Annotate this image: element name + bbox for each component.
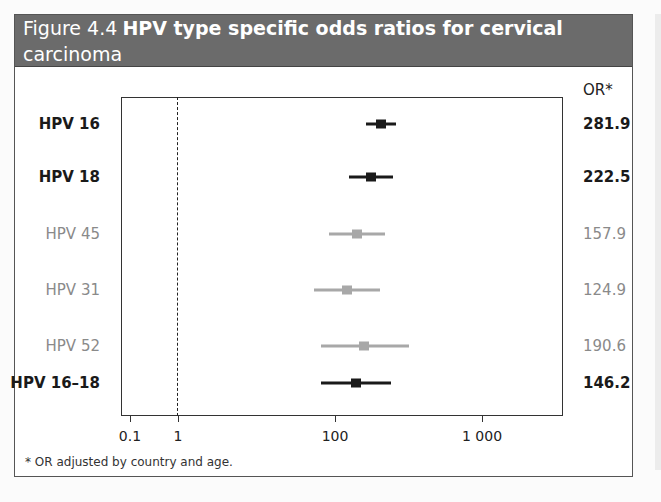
row-label: HPV 52 [46,337,100,355]
point-estimate-marker [376,120,386,129]
point-estimate-marker [351,379,361,388]
row-label: HPV 31 [46,281,100,299]
figure-title: HPV type specific odds ratios for cervic… [122,17,563,39]
x-axis-tick-label: 1 000 [462,428,502,444]
x-axis-tick [178,416,179,422]
row-label: HPV 16 [39,115,100,133]
figure-header: Figure 4.4 HPV type specific odds ratios… [15,15,632,67]
odds-ratio-value: 281.9 [583,115,630,133]
odds-ratio-value: 222.5 [583,168,630,186]
odds-ratio-value: 146.2 [583,374,630,392]
figure-panel: Figure 4.4 HPV type specific odds ratios… [14,14,633,477]
figure-title-line2: carcinoma [23,43,122,65]
x-axis-tick-label: 100 [322,428,349,444]
x-axis-tick [130,416,131,422]
point-estimate-marker [352,230,362,239]
odds-ratio-value: 157.9 [583,225,626,243]
row-label: HPV 18 [39,168,100,186]
row-label: HPV 16–18 [10,374,100,392]
row-label: HPV 45 [46,225,100,243]
x-axis-tick-label: 0.1 [119,428,141,444]
point-estimate-marker [342,286,352,295]
footnote: * OR adjusted by country and age. [25,455,233,469]
odds-ratio-value: 190.6 [583,337,626,355]
odds-ratio-value: 124.9 [583,281,626,299]
x-axis-tick [335,416,336,422]
x-axis-tick-label: 1 [174,428,183,444]
figure-label: Figure 4.4 [23,17,117,39]
or-column-header: OR* [583,81,613,99]
page-edge-strip [655,14,661,470]
point-estimate-marker [359,342,369,351]
plot-area [121,97,563,416]
reference-line [177,97,178,416]
point-estimate-marker [366,173,376,182]
x-axis-tick [482,416,483,422]
